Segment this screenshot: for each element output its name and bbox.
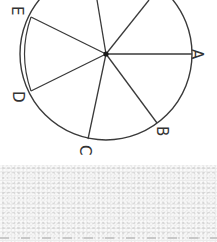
label-d: D [9,91,27,103]
radius-d [31,54,106,91]
label-b: B [153,126,171,136]
circle-diagram: A B C D E [0,0,217,165]
radii [31,0,192,139]
dashed-line [0,237,217,239]
radius-e [31,17,106,54]
double-arc-ed [25,17,32,91]
noise-background [0,165,217,242]
label-c: C [76,145,94,155]
label-e: E [8,6,26,15]
center-point [103,51,108,56]
label-a: A [188,49,206,60]
circle-outline [20,0,192,140]
radius-b [106,54,157,123]
radius-top-left [97,0,106,54]
radius-top-right [106,0,149,54]
point-labels: A B C D E [8,6,206,155]
radius-c [88,54,106,139]
